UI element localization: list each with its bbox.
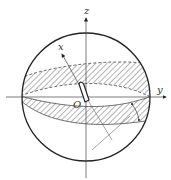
- x-axis-label: x: [58, 41, 64, 52]
- sphere-diagram: z x y O: [0, 0, 171, 180]
- z-axis-label: z: [83, 5, 90, 16]
- origin-label: O: [73, 99, 81, 110]
- y-axis-label: y: [156, 84, 163, 95]
